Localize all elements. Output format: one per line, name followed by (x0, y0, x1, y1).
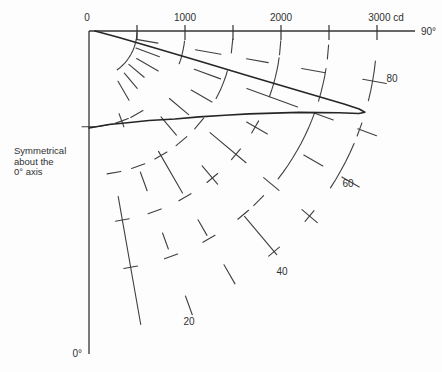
arc-tick-2000cd-40 (207, 173, 218, 182)
arc-tick-2500cd-45 (254, 196, 264, 206)
ray-20-dash (140, 172, 147, 191)
ray-70-dash (194, 69, 220, 79)
ray-80-dash (363, 79, 387, 83)
arc-tick-2000cd-20 (148, 209, 161, 214)
arc-tick-2000cd-85 (280, 41, 281, 55)
arc-tick-2500cd-20 (164, 254, 177, 259)
arc-tick-3000cd-50 (305, 211, 314, 222)
ray-80-dash (302, 69, 326, 73)
polar-grid (82, 33, 386, 325)
ray-20-dash (185, 296, 192, 315)
ninety-degree-label: 90° (421, 26, 436, 37)
cd-label-0: 0 (84, 12, 90, 23)
arc-tick-1000cd-30 (131, 110, 143, 117)
ray-30-dash (198, 220, 207, 236)
ray-50-dash (129, 64, 144, 77)
chart-canvas: 90° 0100020003000 cd 0° 80604020 (0, 0, 442, 372)
arc-tick-1500cd-20 (132, 164, 145, 169)
arc-tick-1500cd-50 (195, 118, 204, 129)
ray-10-dash (118, 196, 141, 324)
arc-tick-2000cd-60 (252, 121, 259, 133)
ray-60-dash (304, 155, 323, 166)
symmetry-note-line: Symmetrical (14, 146, 84, 157)
arc-1000cd-piece (179, 41, 184, 64)
cd-label-2000: 2000 (270, 12, 293, 23)
angle-label-80: 80 (386, 73, 398, 84)
cd-label-1000: 1000 (174, 12, 197, 23)
ray-30-dash (118, 81, 129, 100)
arc-tick-1500cd-40 (176, 137, 187, 146)
arc-tick-2500cd-40 (238, 210, 249, 219)
ray-40-dash (245, 216, 277, 254)
angle-label-20: 20 (183, 316, 195, 327)
ray-70-dash (358, 129, 377, 136)
ray-50-dash (169, 98, 188, 114)
candela-axis: 90° 0100020003000 cd (84, 12, 436, 40)
ray-30-dash (159, 151, 183, 193)
ray-60-dash (191, 90, 212, 102)
ray-40-dash (124, 73, 137, 88)
arc-tick-1500cd-10 (107, 171, 121, 173)
angle-label-40: 40 (276, 266, 288, 277)
arc-tick-2000cd-30 (179, 194, 191, 201)
arc-tick-3000cd-40 (269, 247, 280, 256)
arc-2500cd-piece (278, 113, 314, 179)
symmetry-note: Symmetrical about the 0° axis (14, 146, 84, 178)
arc-tick-2500cd-30 (203, 235, 215, 242)
arc-2000cd-piece (269, 58, 279, 97)
photometric-polar-chart: 90° 0100020003000 cd 0° 80604020 Symmetr… (0, 0, 442, 372)
arc-1500cd-piece (216, 71, 227, 99)
ray-80-dash (195, 50, 221, 55)
ray-70-dash (247, 88, 298, 106)
zero-degree-label: 0° (72, 348, 82, 359)
nadir-axis: 0° (72, 31, 89, 359)
ray-80-dash (247, 59, 269, 63)
arc-tick-3000cd-70 (357, 123, 362, 136)
ray-50-dash (264, 178, 279, 191)
ray-30-dash (224, 265, 235, 284)
ray-60-dash (137, 59, 159, 72)
ray-50-dash (210, 133, 246, 163)
ray-70-dash (313, 112, 334, 120)
angle-label-60: 60 (342, 178, 354, 189)
ray-80-dash (136, 39, 158, 43)
ray-20-dash (163, 233, 169, 249)
arc-tick-1500cd-30 (155, 152, 167, 159)
ray-70-dash (136, 48, 159, 57)
arc-tick-1500cd-84 (231, 39, 232, 53)
arc-tick-2500cd-85 (327, 45, 328, 59)
symmetry-note-line: 0° axis (14, 167, 84, 178)
angle-ring-labels: 80604020 (183, 73, 398, 327)
cd-label-3000: 3000 cd (368, 12, 404, 23)
arc-tick-2000cd-50 (231, 149, 240, 160)
